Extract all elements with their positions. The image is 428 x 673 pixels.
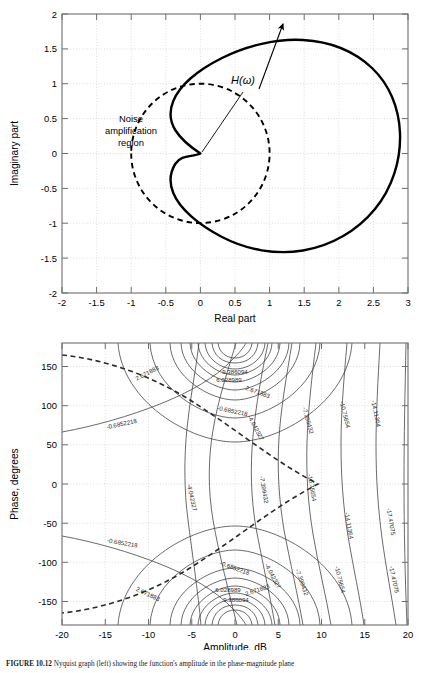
arrow-to-cusp — [202, 92, 243, 152]
contour-ytick: 100 — [41, 400, 57, 411]
nyquist-ytick: 0.5 — [44, 113, 57, 124]
nyquist-xtick: 0.5 — [228, 297, 241, 308]
contour-label: -4.042327 — [186, 483, 199, 512]
nyquist-ytick: -1 — [49, 218, 57, 229]
nyquist-y-axis-label: Imaginary part — [9, 121, 20, 186]
contour-xtick: -5 — [188, 629, 196, 640]
noise-region-label-line1: Noise — [119, 113, 143, 124]
transfer-function-label: H(ω) — [231, 74, 255, 86]
figure-caption-label: FIGURE 10.12 — [6, 660, 52, 668]
figure-caption: FIGURE 10.12 Nyquist graph (left) showin… — [6, 660, 426, 669]
contour-label: -10.75654 — [339, 400, 353, 429]
contour-label: -7.399432 — [259, 475, 271, 504]
contour-ytick: 0 — [52, 479, 57, 490]
nyquist-xtick: -2 — [58, 297, 66, 308]
contour-xtick: 10 — [316, 629, 326, 640]
contour-label: -0.6852218 — [107, 536, 139, 548]
nyquist-xtick: 1.5 — [298, 297, 311, 308]
nyquist-xtick: -1.5 — [89, 297, 105, 308]
contour-label: -0.6852218 — [106, 417, 138, 430]
contour-ytick: -50 — [43, 518, 57, 529]
nyquist-xtick: 2 — [336, 297, 341, 308]
noise-region-label-line3: region — [118, 137, 144, 148]
contour-label: -14.11364 — [344, 512, 356, 540]
contour-label: 2.671883 — [135, 585, 162, 602]
figure-10-12: H(ω) Noise amplification region -2 -1.5 … — [0, 0, 428, 673]
nyquist-ytick: 0 — [52, 148, 57, 159]
nyquist-ytick: 1 — [52, 78, 57, 89]
nyquist-ytick: -1.5 — [41, 253, 57, 264]
contour-y-axis-label: Phase, degrees — [9, 448, 20, 519]
nyquist-ytick: -2 — [49, 288, 57, 299]
contour-svg: 9.386094 6.028989 2.671883 2.671883 -0.6… — [0, 330, 428, 650]
contour-ytick: -100 — [38, 557, 57, 568]
contour-xtick: -15 — [98, 629, 112, 640]
contour-ytick: 50 — [47, 439, 57, 450]
contour-label: 9.386094 — [222, 368, 248, 375]
nyquist-x-tick-labels: -2 -1.5 -1 -0.5 0 0.5 1 1.5 2 2.5 3 — [58, 297, 411, 308]
contour-label: -17.47075 — [386, 507, 398, 536]
nyquist-xtick: 0 — [198, 297, 203, 308]
nyquist-x-axis-label: Real part — [214, 313, 256, 324]
nyquist-ytick: 1.5 — [44, 43, 57, 54]
contour-label: 9.386094 — [223, 596, 249, 603]
noise-region-label-line2: amplification — [105, 125, 157, 136]
nyquist-xtick: 1 — [267, 297, 272, 308]
contour-label: -10.75654 — [334, 565, 348, 594]
contour-x-tick-labels: -20 -15 -10 -5 0 5 10 15 20 — [55, 629, 413, 640]
nyquist-svg: H(ω) Noise amplification region -2 -1.5 … — [0, 0, 428, 330]
contour-x-axis-label: Amplitude, dB — [203, 642, 267, 650]
contour-ytick: 150 — [41, 361, 57, 372]
contour-label: 2.671883 — [244, 582, 271, 597]
nyquist-xtick: 2.5 — [367, 297, 380, 308]
nyquist-xtick: 3 — [405, 297, 410, 308]
contour-gridlines — [62, 343, 408, 625]
contour-xtick: 15 — [360, 629, 370, 640]
nyquist-ytick: 2 — [52, 9, 57, 20]
contour-xtick: 0 — [232, 629, 237, 640]
contour-ytick: -150 — [38, 596, 57, 607]
contour-labels: 9.386094 6.028989 2.671883 2.671883 -0.6… — [106, 364, 401, 603]
contour-label: 6.028989 — [216, 376, 242, 383]
arrow-to-outer-curve — [259, 24, 283, 89]
contour-label: -4.042327 — [247, 414, 266, 442]
contour-xtick: 5 — [276, 629, 281, 640]
contour-xtick: -20 — [55, 629, 69, 640]
nyquist-xtick: -1 — [127, 297, 135, 308]
nyquist-annotations: H(ω) Noise amplification region — [105, 24, 283, 152]
figure-caption-text: Nyquist graph (left) showing the functio… — [54, 660, 294, 668]
contour-label: -14.11364 — [370, 400, 383, 428]
nyquist-locus-curve — [171, 40, 400, 252]
contour-label: 6.028989 — [215, 586, 241, 593]
nyquist-y-tick-labels: 2 1.5 1 0.5 0 -0.5 -1 -1.5 -2 — [41, 9, 57, 299]
nyquist-ytick: -0.5 — [41, 183, 57, 194]
nyquist-xtick: -0.5 — [158, 297, 174, 308]
nyquist-plot-panel: H(ω) Noise amplification region -2 -1.5 … — [0, 0, 428, 330]
contour-xtick: -10 — [142, 629, 156, 640]
contour-plot-panel: 9.386094 6.028989 2.671883 2.671883 -0.6… — [0, 330, 428, 650]
contour-xtick: 20 — [403, 629, 413, 640]
contour-y-tick-labels: 150 100 50 0 -50 -100 -150 — [38, 361, 57, 607]
